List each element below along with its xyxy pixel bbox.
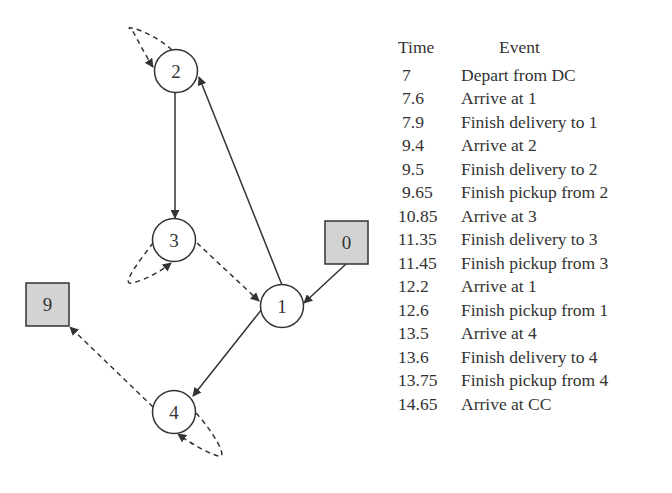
event-schedule-table: Time Event 7Depart from DC 7.6Arrive at … xyxy=(398,36,608,416)
event-cell: Arrive at 1 xyxy=(461,275,608,299)
table-row: 13.75Finish pickup from 4 xyxy=(398,369,608,393)
time-cell: 10.85 xyxy=(398,205,461,229)
table-row: 10.85Arrive at 3 xyxy=(398,205,608,229)
table-row: 13.6Finish delivery to 4 xyxy=(398,346,608,370)
table-row: 9.4Arrive at 2 xyxy=(398,134,608,158)
node-3: 3 xyxy=(153,219,196,262)
time-cell: 11.45 xyxy=(398,252,461,276)
time-cell: 7.9 xyxy=(398,111,461,135)
event-cell: Depart from DC xyxy=(461,64,608,88)
event-cell: Arrive at 4 xyxy=(461,322,608,346)
table-row: 7.9Finish delivery to 1 xyxy=(398,111,608,135)
table-row: 11.35Finish delivery to 3 xyxy=(398,228,608,252)
table-row: 13.5Arrive at 4 xyxy=(398,322,608,346)
time-cell: 11.35 xyxy=(398,228,461,252)
event-cell: Finish pickup from 4 xyxy=(461,369,608,393)
table-row: 9.65Finish pickup from 2 xyxy=(398,181,608,205)
depot-node-9-label: 9 xyxy=(43,294,53,315)
node-1: 1 xyxy=(261,285,304,328)
depot-node-9: 9 xyxy=(26,283,69,326)
table-row: 7.6Arrive at 1 xyxy=(398,87,608,111)
edge-1-to-2 xyxy=(199,77,282,285)
table-row: 7Depart from DC xyxy=(398,64,608,88)
table-row: 12.2Arrive at 1 xyxy=(398,275,608,299)
depot-node-0-label: 0 xyxy=(342,232,352,253)
edges xyxy=(70,28,346,457)
table-row: 14.65Arrive at CC xyxy=(398,393,608,417)
edge-4-to-9 xyxy=(70,327,153,407)
event-cell: Finish delivery to 4 xyxy=(461,346,608,370)
event-cell: Finish pickup from 1 xyxy=(461,299,608,323)
event-cell: Arrive at 2 xyxy=(461,134,608,158)
event-cell: Finish pickup from 2 xyxy=(461,181,608,205)
event-column-header: Event xyxy=(461,36,608,64)
node-4: 4 xyxy=(153,391,196,434)
time-cell: 13.6 xyxy=(398,346,461,370)
event-cell: Arrive at CC xyxy=(461,393,608,417)
time-cell: 9.5 xyxy=(398,158,461,182)
depot-node-0: 0 xyxy=(325,221,368,264)
time-cell: 7.6 xyxy=(398,87,461,111)
table-row: 12.6Finish pickup from 1 xyxy=(398,299,608,323)
node-4-label: 4 xyxy=(169,402,179,423)
time-cell: 14.65 xyxy=(398,393,461,417)
table-row: 9.5Finish delivery to 2 xyxy=(398,158,608,182)
time-cell: 7 xyxy=(398,64,461,88)
node-2-label: 2 xyxy=(171,61,181,82)
time-cell: 9.65 xyxy=(398,181,461,205)
time-cell: 13.5 xyxy=(398,322,461,346)
time-cell: 12.2 xyxy=(398,275,461,299)
edge-3-to-1 xyxy=(197,243,259,301)
time-cell: 12.6 xyxy=(398,299,461,323)
table-row: 11.45Finish pickup from 3 xyxy=(398,252,608,276)
time-column-header: Time xyxy=(398,36,461,64)
event-cell: Finish pickup from 3 xyxy=(461,252,608,276)
table-header-row: Time Event xyxy=(398,36,608,64)
time-cell: 9.4 xyxy=(398,134,461,158)
event-cell: Finish delivery to 1 xyxy=(461,111,608,135)
event-cell: Finish delivery to 3 xyxy=(461,228,608,252)
node-3-label: 3 xyxy=(169,230,179,251)
route-diagram: 2 3 1 4 0 9 xyxy=(0,0,390,493)
edge-1-to-4 xyxy=(193,309,262,396)
node-1-label: 1 xyxy=(277,296,287,317)
node-2: 2 xyxy=(155,50,198,93)
event-cell: Finish delivery to 2 xyxy=(461,158,608,182)
event-cell: Arrive at 3 xyxy=(461,205,608,229)
time-cell: 13.75 xyxy=(398,369,461,393)
event-cell: Arrive at 1 xyxy=(461,87,608,111)
edge-0-to-1 xyxy=(304,264,346,303)
